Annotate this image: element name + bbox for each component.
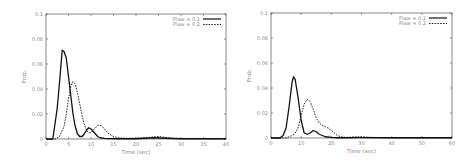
y-tick-label: 0.02	[257, 110, 268, 116]
x-tick-label: 15	[110, 141, 116, 147]
y-tick-label: 0.06	[32, 61, 43, 67]
y-axis-label: Prob.	[21, 69, 27, 83]
y-tick-label: 0.04	[257, 85, 268, 91]
x-tick-label: 40	[223, 141, 229, 147]
x-tick-label: 10	[298, 140, 304, 146]
x-tick-label: 50	[419, 140, 425, 146]
x-axis-label: Time (sec)	[346, 148, 376, 154]
x-tick-label: 60	[449, 140, 455, 146]
chart-svg: 051015202530354000.020.040.060.080.1Time…	[0, 0, 238, 166]
x-tick-label: 5	[67, 141, 70, 147]
series-line-solid	[271, 77, 452, 138]
y-tick-label: 0.06	[257, 60, 268, 66]
plot-frame	[46, 14, 226, 139]
y-tick-label: 0.08	[32, 36, 43, 42]
x-tick-label: 40	[388, 140, 394, 146]
x-tick-label: 35	[200, 141, 206, 147]
y-tick-label: 0.08	[257, 35, 268, 41]
x-tick-label: 20	[133, 141, 139, 147]
chart-left: 051015202530354000.020.040.060.080.1Time…	[0, 0, 238, 166]
x-tick-label: 10	[88, 141, 94, 147]
y-axis-label: Prob.	[246, 68, 252, 82]
chart-right: 010203040506000.020.040.060.080.1Time (s…	[238, 0, 476, 166]
y-tick-label: 0.02	[32, 111, 43, 117]
plot-frame	[271, 13, 452, 138]
series-line-solid	[46, 50, 226, 139]
y-tick-label: 0	[40, 136, 43, 142]
series-line-dashed	[271, 99, 452, 138]
x-tick-label: 30	[358, 140, 364, 146]
y-tick-label: 0.04	[32, 86, 43, 92]
chart-svg: 010203040506000.020.040.060.080.1Time (s…	[238, 0, 476, 166]
x-tick-label: 0	[269, 140, 272, 146]
x-tick-label: 0	[44, 141, 47, 147]
y-tick-label: 0.1	[260, 10, 268, 16]
x-tick-label: 25	[155, 141, 161, 147]
legend-label: Plaw = 0.2	[399, 20, 426, 26]
legend-label: Plaw = 0.2	[173, 21, 200, 27]
y-tick-label: 0	[265, 135, 268, 141]
x-tick-label: 30	[178, 141, 184, 147]
x-tick-label: 20	[328, 140, 334, 146]
y-tick-label: 0.1	[35, 11, 43, 17]
x-axis-label: Time (sec)	[121, 149, 151, 155]
